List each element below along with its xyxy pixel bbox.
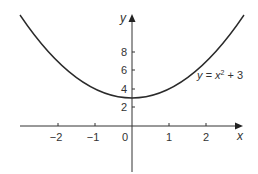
- x-axis-label: x: [236, 129, 244, 143]
- x-tick-label-neg2: −2: [50, 131, 63, 143]
- y-axis-arrow-icon: [129, 14, 136, 22]
- y-tick-label-4: 4: [121, 83, 127, 95]
- y-tick-label-6: 6: [121, 64, 127, 76]
- origin-label: 0: [122, 131, 128, 143]
- chart-canvas: −2 −1 0 1 2 8 6 4 2 y x y = x2 + 3: [0, 0, 258, 174]
- y-axis-label: y: [119, 11, 127, 25]
- x-tick-label-2: 2: [203, 131, 209, 143]
- y-tick-label-2: 2: [121, 101, 127, 113]
- equation-label: y = x2 + 3: [196, 69, 243, 81]
- x-tick-label-1: 1: [166, 131, 172, 143]
- x-tick-label-neg1: −1: [87, 131, 100, 143]
- y-tick-label-8: 8: [121, 46, 127, 58]
